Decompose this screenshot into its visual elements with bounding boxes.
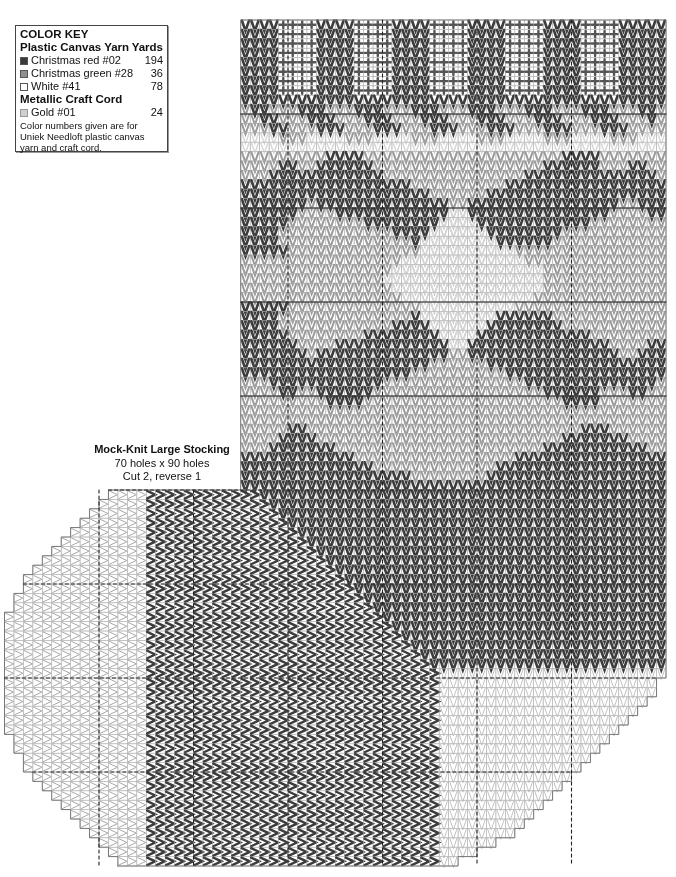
key-item-yards: 36 xyxy=(151,67,163,80)
yarn-heading-row: Plastic Canvas Yarn Yards xyxy=(20,41,163,54)
key-item-name: Christmas red #02 xyxy=(31,54,121,66)
key-item-yards: 24 xyxy=(151,106,163,119)
key-item-green: Christmas green #28 36 xyxy=(20,67,163,80)
pattern-cut-instructions: Cut 2, reverse 1 xyxy=(82,470,242,484)
key-item-name: Gold #01 xyxy=(31,106,76,118)
color-key: COLOR KEY Plastic Canvas Yarn Yards Chri… xyxy=(15,25,168,152)
key-item-yards: 78 xyxy=(151,80,163,93)
gold-swatch-icon xyxy=(20,109,28,117)
key-item-yards: 194 xyxy=(145,54,163,67)
key-item-name: Christmas green #28 xyxy=(31,67,133,79)
color-key-title: COLOR KEY xyxy=(20,28,163,41)
color-key-note: Color numbers given are for Uniek Needlo… xyxy=(20,120,163,153)
cord-heading: Metallic Craft Cord xyxy=(20,93,163,106)
yarn-heading: Plastic Canvas Yarn xyxy=(20,41,129,54)
key-item-gold: Gold #01 24 xyxy=(20,106,163,119)
pattern-title: Mock-Knit Large Stocking xyxy=(82,443,242,457)
key-item-red: Christmas red #02 194 xyxy=(20,54,163,67)
pattern-size: 70 holes x 90 holes xyxy=(82,457,242,471)
green-swatch-icon xyxy=(20,70,28,78)
yards-heading: Yards xyxy=(132,41,163,54)
red-swatch-icon xyxy=(20,57,28,65)
key-item-name: White #41 xyxy=(31,80,81,92)
white-swatch-icon xyxy=(20,83,28,91)
key-item-white: White #41 78 xyxy=(20,80,163,93)
pattern-label: Mock-Knit Large Stocking 70 holes x 90 h… xyxy=(82,443,242,484)
